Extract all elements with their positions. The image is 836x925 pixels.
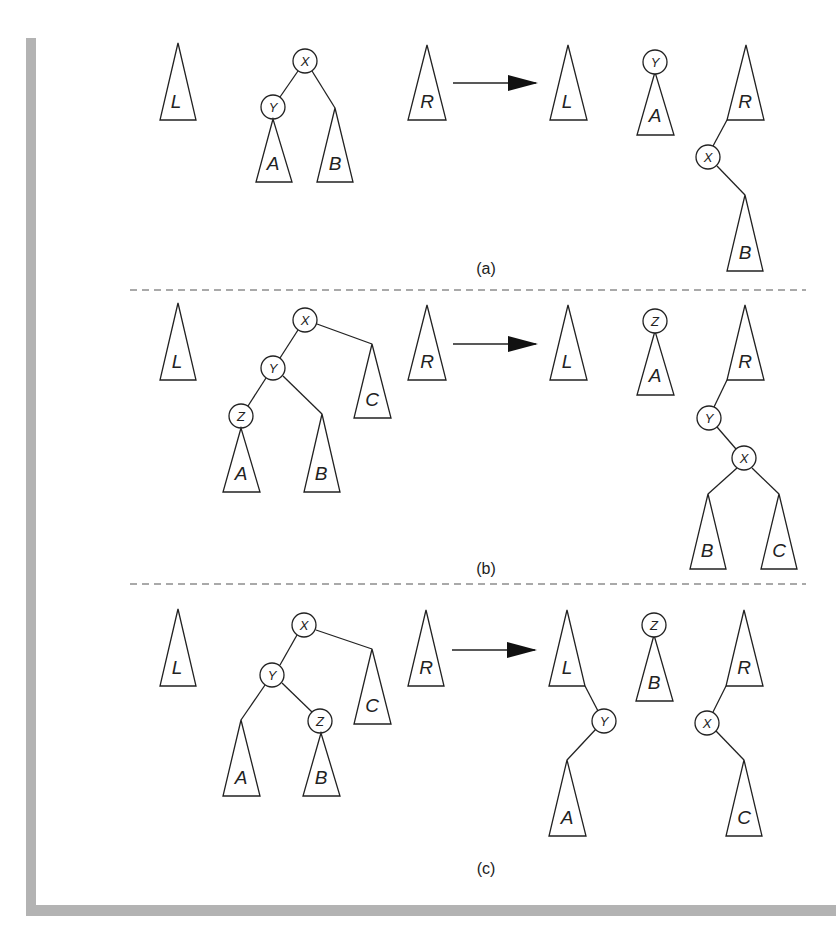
- label-text: C: [737, 807, 751, 828]
- subtree-R-after: R: [726, 610, 763, 686]
- subtree-R-after: R: [727, 45, 764, 120]
- label-text: A: [648, 365, 662, 386]
- subtree-A: A: [223, 720, 260, 796]
- node-X: X: [293, 308, 317, 332]
- label-text: Y: [269, 100, 279, 115]
- panel-a: L X Y A B R: [160, 43, 764, 277]
- node-Y-after: Y: [592, 709, 616, 733]
- subtree-C-after: C: [761, 494, 797, 569]
- label-text: Y: [705, 411, 715, 426]
- caption-b: (b): [476, 560, 496, 577]
- label-text: B: [701, 540, 714, 561]
- panel-c-after: L Y A B Z R: [549, 610, 763, 836]
- label-text: X: [702, 716, 713, 731]
- label-text: B: [329, 153, 342, 174]
- label-text: Z: [236, 409, 246, 424]
- label-text: R: [420, 351, 434, 372]
- label-text: X: [300, 313, 311, 328]
- node-Z-after: Z: [643, 309, 667, 333]
- label-text: B: [739, 242, 752, 263]
- subtree-A-after: A: [637, 331, 674, 395]
- label-text: A: [234, 767, 248, 788]
- subtree-R-after: R: [727, 305, 764, 380]
- subtree-B-after: B: [690, 494, 726, 569]
- subtree-L: L: [160, 43, 196, 120]
- label-text: R: [737, 657, 751, 678]
- label-text: Y: [269, 361, 279, 376]
- caption-a: (a): [476, 260, 496, 277]
- label-text: X: [703, 150, 714, 165]
- subtree-L-after: L: [550, 45, 587, 120]
- label-text: A: [648, 105, 662, 126]
- subtree-L: L: [160, 303, 196, 380]
- label-text: B: [315, 767, 328, 788]
- label-text: C: [365, 389, 379, 410]
- label-text: Z: [650, 314, 660, 329]
- label-text: C: [772, 540, 786, 561]
- subtree-B-after: B: [727, 195, 763, 271]
- label-text: A: [234, 463, 248, 484]
- subtree-A-after: A: [549, 760, 586, 836]
- label-text: R: [420, 91, 434, 112]
- subtree-A: A: [223, 428, 260, 492]
- label-text: B: [648, 672, 661, 693]
- node-Y-after: Y: [643, 50, 667, 74]
- subtree-C: C: [354, 649, 391, 724]
- label-text: Z: [315, 714, 325, 729]
- panel-b-after: L A Z R Y X: [550, 305, 797, 569]
- label-text: A: [266, 153, 280, 174]
- node-Y: Y: [260, 663, 284, 687]
- subtree-R: R: [408, 45, 446, 120]
- label-text: L: [562, 657, 573, 678]
- panel-b-before: L X Y Z A B: [160, 303, 446, 492]
- subtree-B: B: [303, 733, 340, 796]
- node-Z: Z: [229, 404, 253, 428]
- node-Z: Z: [308, 709, 332, 733]
- label-text: L: [172, 657, 183, 678]
- label-text: Y: [600, 714, 610, 729]
- node-Z-after: Z: [642, 613, 666, 637]
- subtree-B: B: [304, 414, 340, 492]
- label-text: X: [739, 451, 750, 466]
- caption-c: (c): [477, 860, 496, 877]
- label-text: Y: [651, 55, 661, 70]
- splay-tree-diagram: L X Y A B R: [0, 0, 836, 925]
- node-X: X: [293, 49, 317, 73]
- node-Y: Y: [261, 356, 285, 380]
- subtree-A: A: [256, 119, 292, 182]
- label-text: L: [172, 351, 183, 372]
- label-text: R: [419, 657, 433, 678]
- label-text: Y: [268, 668, 278, 683]
- panel-a-before: L X Y A B R: [160, 43, 446, 182]
- panel-b: L X Y Z A B: [160, 303, 797, 577]
- label-text: B: [315, 463, 328, 484]
- node-Y-after: Y: [697, 406, 721, 430]
- label-text: Z: [649, 618, 659, 633]
- node-X-after: X: [732, 446, 756, 470]
- subtree-B-after: B: [636, 635, 673, 701]
- panel-c-before: L X Y Z A B: [160, 609, 444, 796]
- label-text: R: [738, 351, 752, 372]
- subtree-B: B: [317, 108, 353, 182]
- label-text: L: [562, 351, 573, 372]
- label-text: L: [562, 91, 573, 112]
- label-text: X: [300, 54, 311, 69]
- panel-c: L X Y Z A B: [160, 609, 763, 877]
- subtree-L-after: L: [550, 305, 587, 380]
- label-text: R: [738, 91, 752, 112]
- label-text: L: [171, 91, 182, 112]
- subtree-C: C: [354, 344, 391, 418]
- node-X-after: X: [696, 145, 720, 169]
- label-text: A: [560, 807, 574, 828]
- node-X: X: [292, 613, 316, 637]
- node-Y: Y: [261, 95, 285, 119]
- subtree-L-after: L: [549, 610, 585, 686]
- subtree-C-after: C: [726, 760, 762, 836]
- node-X-after: X: [695, 711, 719, 735]
- label-text: C: [365, 695, 379, 716]
- subtree-L: L: [160, 609, 196, 686]
- subtree-R: R: [408, 610, 444, 686]
- label-text: X: [299, 618, 310, 633]
- panel-a-after: L A Y R X B: [550, 45, 764, 271]
- subtree-A-after: A: [637, 72, 674, 135]
